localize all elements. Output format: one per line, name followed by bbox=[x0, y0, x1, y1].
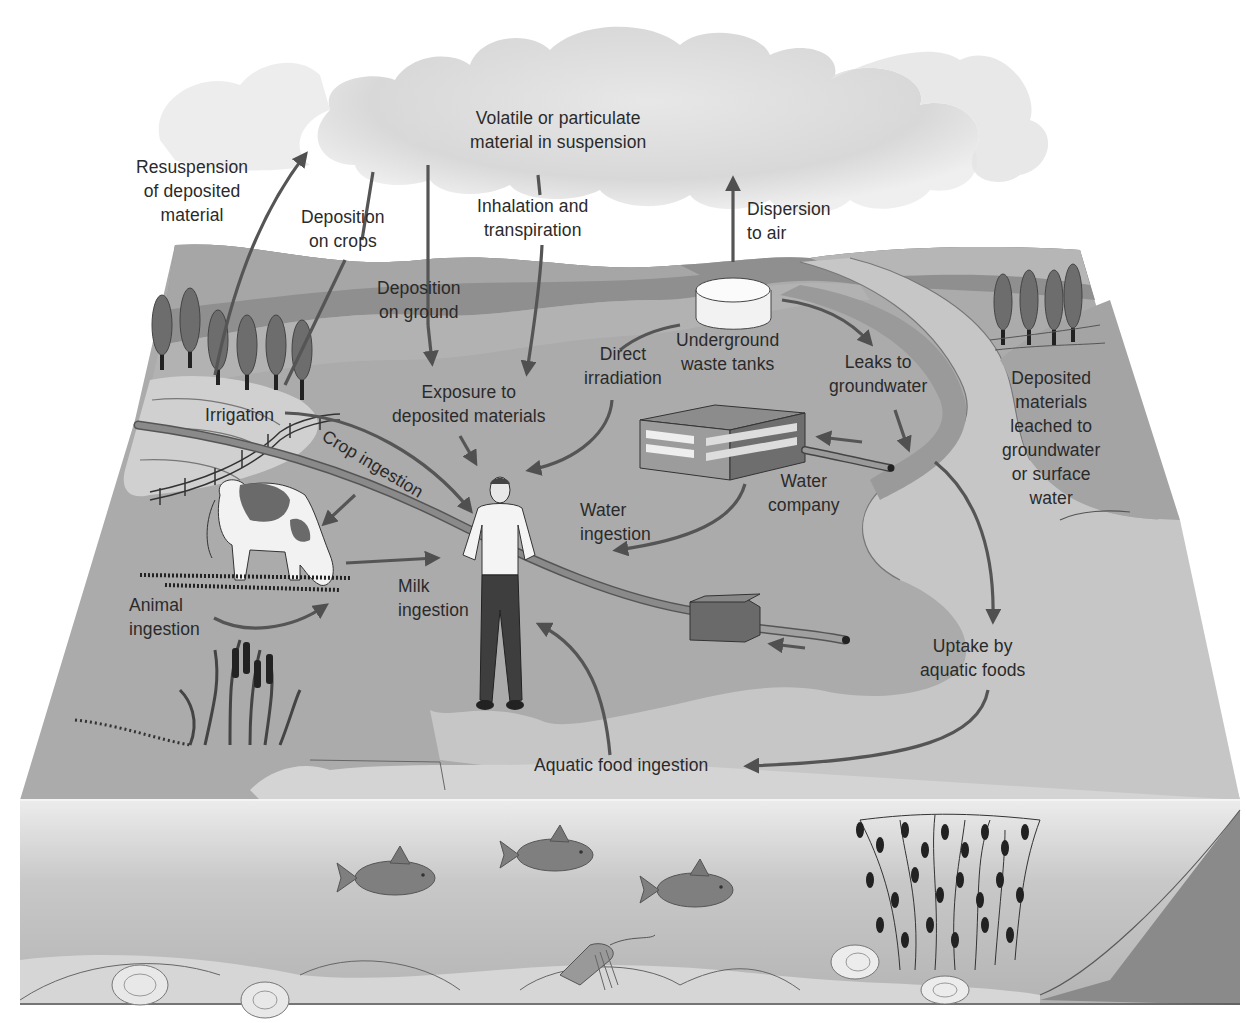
label-dispersion: Dispersion to air bbox=[747, 197, 831, 245]
label-irrigation: Irrigation bbox=[205, 403, 274, 427]
label-deposition-crops: Deposition on crops bbox=[301, 205, 385, 253]
label-water-company: Water company bbox=[768, 469, 840, 517]
label-uptake-aquatic: Uptake by aquatic foods bbox=[920, 634, 1025, 682]
label-cloud-material: Volatile or particulate material in susp… bbox=[470, 106, 646, 154]
label-water-ingestion: Water ingestion bbox=[580, 498, 651, 546]
label-animal-ingestion: Animal ingestion bbox=[129, 593, 200, 641]
label-deposition-ground: Deposition on ground bbox=[377, 276, 461, 324]
label-exposure: Exposure to deposited materials bbox=[392, 380, 546, 428]
label-inhalation: Inhalation and transpiration bbox=[477, 194, 588, 242]
label-leached-materials: Deposited materials leached to groundwat… bbox=[1002, 366, 1100, 510]
exposure-pathways-diagram: Volatile or particulate material in susp… bbox=[0, 0, 1247, 1023]
label-resuspension: Resuspension of deposited material bbox=[136, 155, 248, 227]
water-cross-section bbox=[20, 800, 1240, 1005]
underground-waste-tank bbox=[696, 278, 771, 329]
label-leaks-groundwater: Leaks to groundwater bbox=[829, 350, 927, 398]
label-milk-ingestion: Milk ingestion bbox=[398, 574, 469, 622]
label-underground-tanks: Underground waste tanks bbox=[676, 328, 779, 376]
label-direct-irradiation: Direct irradiation bbox=[584, 342, 662, 390]
label-aquatic-food-ingestion: Aquatic food ingestion bbox=[534, 753, 708, 777]
